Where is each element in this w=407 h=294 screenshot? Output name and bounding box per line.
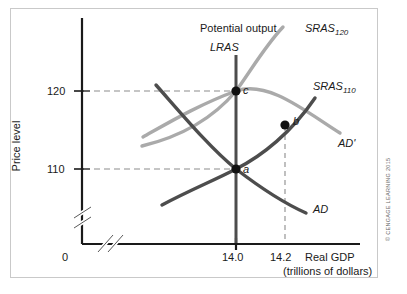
x-tick-label-14-0: 14.0 [222, 251, 243, 263]
point-label-b: b [293, 115, 299, 127]
curve-label-sras-120-text: SRAS [305, 22, 335, 34]
curve-ad [156, 85, 306, 213]
curve-label-sras-110: SRAS110 [313, 80, 356, 95]
curve-label-sras-120-sub: 120 [335, 28, 348, 37]
curve-label-sras-110-sub: 110 [343, 86, 356, 95]
x-tick-label-origin: 0 [62, 251, 68, 263]
point-a-marker [231, 164, 240, 173]
x-axis-subtitle: (trillions of dollars) [283, 265, 372, 277]
copyright-notice: © CENGAGE LEARNING 2015 [385, 165, 391, 241]
curve-label-sras-110-text: SRAS [313, 80, 343, 92]
y-axis-title: Price level [10, 106, 22, 186]
curve-label-lras: LRAS [210, 41, 239, 53]
y-tick-label-110: 110 [47, 163, 65, 175]
curve-ad-prime [143, 89, 340, 137]
y-tick-label-120: 120 [47, 85, 65, 97]
point-b-marker [280, 120, 289, 129]
point-label-a: a [243, 163, 249, 175]
curve-label-sras-120: SRAS120 [305, 22, 348, 37]
x-axis-title: Real GDP [305, 251, 355, 263]
point-label-c: c [243, 84, 249, 96]
x-tick-label-14-2: 14.2 [270, 251, 291, 263]
curve-label-ad-prime: AD' [338, 137, 355, 149]
curve-label-ad: AD [313, 203, 328, 215]
figure-container: Price level Real GDP (trillions of dolla… [0, 0, 407, 294]
annotation-potential-output: Potential output [200, 22, 276, 34]
point-c-marker [231, 86, 240, 95]
